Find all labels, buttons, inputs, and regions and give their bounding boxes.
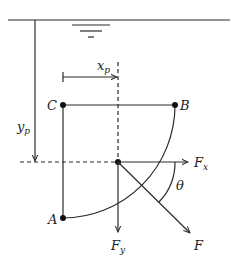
yp-label: yp [16,119,30,136]
point-b [172,102,178,108]
force-f-arrow [118,162,190,233]
angle-theta-label: θ [176,178,184,193]
point-b-label: B [179,98,190,113]
force-fx-label: Fx [193,155,208,172]
point-a [60,215,66,221]
hydrostatic-gate-diagram: yp xp C B A Fx Fy F θ [0,0,237,263]
force-fy-label: Fy [110,238,126,255]
xp-label: xp [97,58,110,75]
free-surface-symbol-icon [72,25,110,37]
angle-theta-arc [159,162,175,202]
point-a-label: A [47,212,57,227]
force-f-label: F [193,238,204,253]
point-c-label: C [47,98,57,113]
point-c [60,102,66,108]
